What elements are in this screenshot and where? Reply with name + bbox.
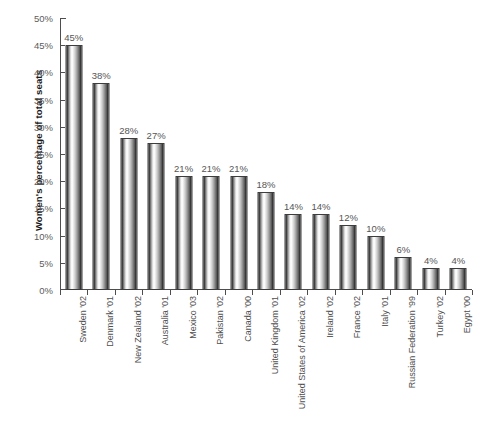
bar[interactable] [395,257,412,290]
bar-slot: 14% [280,18,307,290]
bar[interactable] [93,83,110,290]
bar-value-label: 21% [174,163,193,174]
bar-slot: 14% [307,18,334,290]
x-axis-tick [115,290,116,295]
bar-value-label: 45% [64,32,83,43]
y-tick-label: 20% [34,176,53,187]
bar-slot: 4% [445,18,472,290]
x-axis-tick [445,290,446,295]
bar[interactable] [148,143,165,290]
bar-slot: 21% [170,18,197,290]
x-category-label: Mexico '03 [188,296,198,339]
bar[interactable] [257,192,274,290]
x-category-label: United States of America '02 [297,296,307,409]
bar-slot: 10% [362,18,389,290]
bar-value-label: 38% [92,70,111,81]
x-axis-tick [472,290,473,295]
bar-slot: 6% [390,18,417,290]
x-category-label: Australia '01 [160,296,170,345]
bar-slot: 38% [87,18,114,290]
y-tick-label: 50% [34,13,53,24]
x-category-label: Ireland '02 [325,296,335,338]
bar-value-label: 4% [424,255,438,266]
x-category-label: Sweden '02 [78,296,88,343]
bar-value-label: 14% [311,201,330,212]
x-axis-tick [335,290,336,295]
x-axis-tick [197,290,198,295]
y-tick-label: 40% [34,67,53,78]
bar-value-label: 6% [396,244,410,255]
x-axis-tick [142,290,143,295]
x-axis-category-labels: Sweden '02Denmark '01New Zealand '02Aust… [60,296,472,436]
bar[interactable] [312,214,329,290]
bar-slot: 28% [115,18,142,290]
x-axis-tick [280,290,281,295]
bar[interactable] [367,236,384,290]
y-tick-label: 0% [39,285,53,296]
bar-chart: Women's percentage of total seats 50%45%… [0,0,485,445]
y-axis-tick-labels: 50%45%40%35%30%25%20%15%10%5%0% [0,0,58,300]
bar[interactable] [340,225,357,290]
bar-series: 45%38%28%27%21%21%21%18%14%14%12%10%6%4%… [60,18,472,290]
bar-slot: 21% [197,18,224,290]
x-category-label: Turkey '02 [435,296,445,337]
y-tick-label: 45% [34,40,53,51]
bar[interactable] [203,176,220,290]
bar-value-label: 28% [119,125,138,136]
x-axis-tick [417,290,418,295]
y-tick-label: 30% [34,121,53,132]
bar-slot: 45% [60,18,87,290]
bar-slot: 27% [142,18,169,290]
y-tick-label: 15% [34,203,53,214]
y-tick-label: 10% [34,230,53,241]
bar-slot: 4% [417,18,444,290]
x-axis-tick [60,290,61,295]
bar[interactable] [230,176,247,290]
x-axis-tick [362,290,363,295]
x-category-label: Egypt '00 [462,296,472,333]
x-category-label: United Kingdom '01 [270,296,280,374]
x-category-label: Canada '00 [243,296,253,342]
bar[interactable] [120,138,137,290]
x-category-label: France '02 [352,296,362,338]
x-axis-tick [307,290,308,295]
bar[interactable] [450,268,467,290]
x-category-label: Italy '01 [380,296,390,327]
x-category-label: Denmark '01 [105,296,115,347]
bar[interactable] [422,268,439,290]
y-tick-label: 25% [34,149,53,160]
y-tick-label: 5% [39,257,53,268]
bar-value-label: 14% [284,201,303,212]
x-category-label: Pakistan '02 [215,296,225,345]
y-tick-label: 35% [34,94,53,105]
bar-value-label: 27% [147,130,166,141]
bar-value-label: 21% [229,163,248,174]
bar[interactable] [285,214,302,290]
bar-slot: 18% [252,18,279,290]
bar-value-label: 21% [202,163,221,174]
bar-value-label: 12% [339,212,358,223]
x-axis-tick [390,290,391,295]
bar-slot: 21% [225,18,252,290]
bar-value-label: 18% [256,179,275,190]
x-category-label: Russian Federation '99 [407,296,417,388]
bar-value-label: 4% [451,255,465,266]
x-axis-tick [87,290,88,295]
x-category-label: New Zealand '02 [133,296,143,363]
x-axis-tick [170,290,171,295]
bar-value-label: 10% [366,223,385,234]
x-axis-tick [252,290,253,295]
bar[interactable] [175,176,192,290]
x-axis-tick [225,290,226,295]
bar-slot: 12% [335,18,362,290]
bar[interactable] [65,45,82,290]
